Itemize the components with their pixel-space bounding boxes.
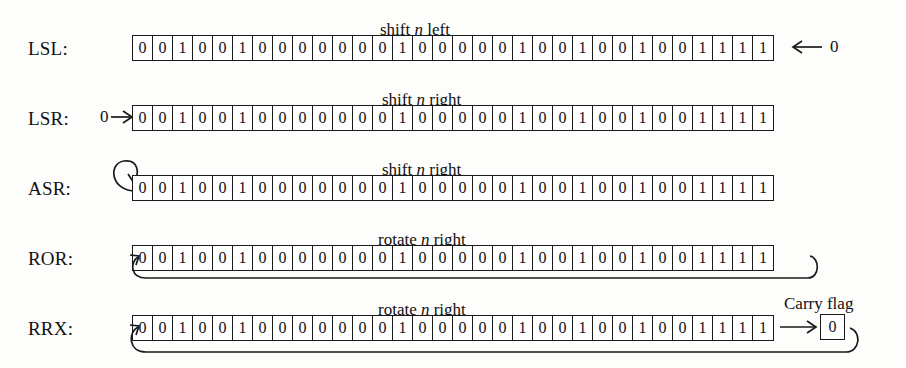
bit-cell: 0 — [313, 106, 333, 130]
bit-cell: 0 — [433, 106, 453, 130]
bit-cell: 1 — [513, 106, 533, 130]
bit-cell: 0 — [413, 106, 433, 130]
row-lsl: LSL: shift n left 0 0 1 0 0 1 0 0 0 0 0 … — [0, 18, 906, 92]
bit-cell: 0 — [313, 36, 333, 60]
row-rrx: RRX: rotate n right Carry flag 0 0 1 0 0… — [0, 298, 906, 368]
bit-cell: 1 — [753, 36, 773, 60]
bit-cell: 0 — [333, 106, 353, 130]
bit-cell: 0 — [313, 176, 333, 200]
bit-cell: 0 — [373, 176, 393, 200]
bit-cell: 0 — [553, 106, 573, 130]
row-asr: ASR: shift n right 0 0 1 0 0 1 0 0 0 0 0… — [0, 158, 906, 232]
bit-cell: 0 — [153, 36, 173, 60]
bit-cell: 1 — [173, 36, 193, 60]
rotate-through-carry-icon — [104, 314, 864, 362]
bit-cell: 0 — [413, 36, 433, 60]
bit-cell: 0 — [553, 176, 573, 200]
bit-cell: 0 — [353, 36, 373, 60]
bit-cell: 1 — [173, 106, 193, 130]
bit-cell: 0 — [613, 106, 633, 130]
bit-cell: 0 — [213, 106, 233, 130]
lsr-input-bit: 0 — [100, 107, 109, 127]
bit-cell: 0 — [253, 106, 273, 130]
bit-cell: 0 — [293, 106, 313, 130]
bit-cell: 1 — [753, 106, 773, 130]
bit-cell: 0 — [493, 36, 513, 60]
bit-cell: 0 — [673, 36, 693, 60]
bit-cell: 1 — [633, 106, 653, 130]
row-label-asr: ASR: — [28, 178, 96, 200]
bit-cell: 0 — [453, 176, 473, 200]
bit-cell: 0 — [293, 36, 313, 60]
register-lsr: 0 0 1 0 0 1 0 0 0 0 0 0 0 1 0 0 0 0 0 1 … — [132, 105, 774, 131]
shift-operations-diagram: LSL: shift n left 0 0 1 0 0 1 0 0 0 0 0 … — [0, 0, 906, 368]
carry-flag-label: Carry flag — [784, 294, 853, 314]
bit-cell: 0 — [373, 36, 393, 60]
bit-cell: 0 — [293, 176, 313, 200]
bit-cell: 0 — [533, 106, 553, 130]
bit-cell: 1 — [233, 176, 253, 200]
bit-cell: 1 — [573, 36, 593, 60]
bit-cell: 1 — [233, 36, 253, 60]
bit-cell: 0 — [673, 176, 693, 200]
bit-cell: 0 — [133, 36, 153, 60]
bit-cell: 1 — [713, 176, 733, 200]
bit-cell: 0 — [493, 106, 513, 130]
bit-cell: 0 — [653, 36, 673, 60]
bit-cell: 0 — [273, 176, 293, 200]
register-asr: 0 0 1 0 0 1 0 0 0 0 0 0 0 1 0 0 0 0 0 1 … — [132, 175, 774, 201]
bit-cell: 0 — [493, 176, 513, 200]
row-label-ror: ROR: — [28, 248, 96, 270]
bit-cell: 0 — [193, 176, 213, 200]
bit-cell: 0 — [193, 106, 213, 130]
bit-cell: 0 — [653, 176, 673, 200]
bit-cell: 0 — [133, 176, 153, 200]
bit-cell: 0 — [593, 36, 613, 60]
bit-cell: 0 — [373, 106, 393, 130]
bit-cell: 1 — [753, 176, 773, 200]
bit-cell: 1 — [233, 106, 253, 130]
bit-cell: 0 — [613, 36, 633, 60]
lsl-input-bit: 0 — [830, 37, 839, 57]
rotate-wrap-icon — [104, 244, 824, 290]
bit-cell: 0 — [533, 36, 553, 60]
row-label-rrx: RRX: — [28, 318, 96, 340]
bit-cell: 0 — [153, 106, 173, 130]
bit-cell: 1 — [513, 36, 533, 60]
bit-cell: 0 — [253, 36, 273, 60]
bit-cell: 0 — [333, 36, 353, 60]
bit-cell: 0 — [333, 176, 353, 200]
bit-cell: 0 — [473, 106, 493, 130]
bit-cell: 1 — [733, 106, 753, 130]
bit-cell: 1 — [573, 176, 593, 200]
bit-cell: 0 — [153, 176, 173, 200]
bit-cell: 0 — [133, 106, 153, 130]
bit-cell: 1 — [173, 176, 193, 200]
bit-cell: 0 — [193, 36, 213, 60]
bit-cell: 1 — [693, 106, 713, 130]
bit-cell: 0 — [353, 106, 373, 130]
bit-cell: 1 — [693, 36, 713, 60]
bit-cell: 0 — [613, 176, 633, 200]
bit-cell: 0 — [593, 176, 613, 200]
row-label-lsl: LSL: — [28, 38, 96, 60]
bit-cell: 0 — [653, 106, 673, 130]
bit-cell: 1 — [733, 176, 753, 200]
bit-cell: 0 — [413, 176, 433, 200]
bit-cell: 0 — [433, 36, 453, 60]
bit-cell: 0 — [553, 36, 573, 60]
bit-cell: 0 — [273, 106, 293, 130]
bit-cell: 1 — [513, 176, 533, 200]
bit-cell: 1 — [713, 36, 733, 60]
row-label-lsr: LSR: — [28, 108, 96, 130]
bit-cell: 0 — [593, 106, 613, 130]
bit-cell: 0 — [473, 176, 493, 200]
bit-cell: 1 — [393, 106, 413, 130]
bit-cell: 1 — [693, 176, 713, 200]
register-lsl: 0 0 1 0 0 1 0 0 0 0 0 0 0 1 0 0 0 0 0 1 … — [132, 35, 774, 61]
bit-cell: 0 — [353, 176, 373, 200]
row-lsr: LSR: shift n right 0 0 0 1 0 0 1 0 0 0 0… — [0, 88, 906, 162]
bit-cell: 0 — [253, 176, 273, 200]
bit-cell: 0 — [213, 36, 233, 60]
row-ror: ROR: rotate n right 0 0 1 0 0 1 0 0 0 0 … — [0, 228, 906, 302]
